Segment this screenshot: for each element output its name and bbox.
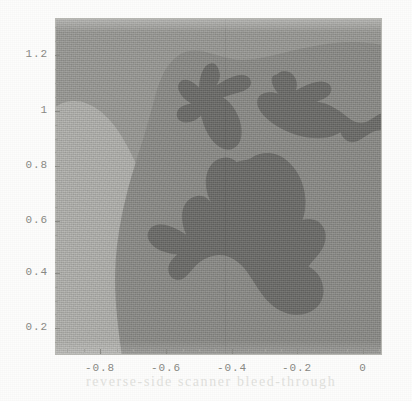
ytick-0.8 — [55, 166, 60, 167]
ytick-minor-0.35 — [55, 287, 58, 288]
ytick-minor-0.7 — [55, 194, 58, 195]
xtick-0 — [363, 349, 364, 354]
ytick-minor-0.15 — [55, 342, 58, 343]
ytick-minor-1.15 — [55, 69, 58, 70]
ytick-minor-1.1 — [55, 83, 58, 84]
xtick--0.6 — [166, 349, 167, 354]
plot-canvas — [56, 19, 381, 354]
ytick-minor-0.75 — [55, 180, 58, 181]
plot-frame — [55, 18, 382, 355]
ytick-minor-0.5 — [55, 249, 58, 250]
ytick-minor-0.9 — [55, 139, 58, 140]
xtick-minor--0.5 — [199, 349, 200, 352]
ytick-minor-1.05 — [55, 97, 58, 98]
xtick-label--0.2: -0.2 — [273, 362, 321, 374]
xtick-minor--0.7 — [133, 349, 134, 352]
ytick-label-1: 1 — [4, 104, 48, 116]
xtick-minor--0.05 — [347, 349, 348, 352]
xtick-minor--0.45 — [215, 349, 216, 352]
ytick-minor-0.45 — [55, 262, 58, 263]
xtick-minor--0.85 — [84, 349, 85, 352]
ytick-minor-0.85 — [55, 152, 58, 153]
xtick-label-0: 0 — [339, 362, 387, 374]
xtick--0.8 — [100, 349, 101, 354]
xtick-minor--0.1 — [330, 349, 331, 352]
ytick-minor-0.55 — [55, 235, 58, 236]
xtick--0.2 — [297, 349, 298, 354]
ytick-minor-1.25 — [55, 41, 58, 42]
xtick-label--0.8: -0.8 — [76, 362, 124, 374]
xtick-minor--0.3 — [265, 349, 266, 352]
ytick-1.2 — [55, 55, 60, 56]
xtick-minor--0.15 — [314, 349, 315, 352]
ytick-label-0.2: 0.2 — [4, 321, 48, 333]
xtick-minor--0.9 — [67, 349, 68, 352]
ytick-1 — [55, 111, 60, 112]
xtick-minor--0.55 — [183, 349, 184, 352]
xtick--0.4 — [232, 349, 233, 354]
ytick-label-1.2: 1.2 — [4, 48, 48, 60]
xtick-label--0.6: -0.6 — [142, 362, 190, 374]
ytick-0.4 — [55, 273, 60, 274]
ytick-0.2 — [55, 328, 60, 329]
scanner-bleed-through-artifact: reverse-side scanner bleed-through — [86, 374, 386, 391]
density-plot-figure: 1.2 1 0.8 0.6 0.4 0.2 -0.8 -0.6 -0.4 -0.… — [0, 0, 412, 401]
xtick-minor--0.25 — [281, 349, 282, 352]
ytick-minor-0.95 — [55, 125, 58, 126]
xtick-minor--0.75 — [117, 349, 118, 352]
ytick-label-0.6: 0.6 — [4, 214, 48, 226]
ytick-minor-0.25 — [55, 314, 58, 315]
ytick-0.6 — [55, 221, 60, 222]
ytick-minor-1.3 — [55, 27, 58, 28]
xtick-label--0.4: -0.4 — [208, 362, 256, 374]
ytick-minor-0.3 — [55, 301, 58, 302]
xtick-minor--0.65 — [150, 349, 151, 352]
xtick-minor-0.05 — [379, 349, 380, 352]
ytick-label-0.4: 0.4 — [4, 266, 48, 278]
ytick-label-0.8: 0.8 — [4, 159, 48, 171]
xtick-minor--0.35 — [248, 349, 249, 352]
ytick-minor-0.65 — [55, 207, 58, 208]
contour-shading-svg — [56, 19, 381, 354]
